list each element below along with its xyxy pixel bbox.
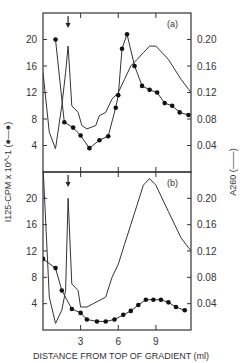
panel-b: 201612840.200.160.120.080.04(b) [26,165,217,330]
y-left-tick-label: 8 [31,114,37,125]
cpm-data-point [147,88,152,93]
cpm-data-point [151,297,156,302]
cpm-data-point [155,90,160,95]
a260-series-line [43,46,191,149]
cpm-data-point [53,266,58,271]
panel-label: (b) [167,178,178,188]
y-right-tick-label: 0.04 [197,298,217,309]
cpm-data-point [121,313,126,318]
cpm-data-point [140,84,145,89]
y-left-tick-label: 8 [31,272,37,283]
cpm-data-point [128,309,133,314]
y-left-tick-label: 12 [26,246,38,257]
y-right-axis-label: A260 (——) [228,148,238,196]
cpm-data-point [144,297,149,302]
cpm-data-point [125,32,130,37]
x-tick-label: 6 [115,336,121,347]
y-right-tick-label: 0.20 [197,34,217,45]
cpm-data-point [71,125,76,130]
y-left-tick-label: 16 [26,61,38,72]
panel-a: 201612840.200.160.120.080.04(a) [26,13,217,172]
y-left-tick-label: 4 [31,140,37,151]
y-left-tick-label: 20 [26,193,38,204]
x-axis-label: DISTANCE FROM TOP OF GRADIENT (ml) [33,351,209,361]
cpm-data-point [170,103,175,108]
cpm-data-point [87,146,92,151]
cpm-data-point [60,288,65,293]
cpm-data-point [78,311,83,316]
plot-frame [43,13,191,172]
cpm-data-point [162,101,167,106]
cpm-data-point [62,120,67,125]
cpm-data-point [97,138,102,143]
cpm-data-point [159,297,164,302]
cpm-series-line [56,34,189,148]
cpm-data-point [174,305,179,310]
cpm-data-point [41,257,46,262]
a260-series-line [43,165,191,323]
cpm-data-point [112,317,117,322]
y-right-tick-label: 0.04 [197,140,217,151]
cpm-data-point [177,110,182,115]
y-right-tick-label: 0.16 [197,219,217,230]
y-left-axis-label: I125-CPM x 10^-1 (●—●) [3,122,13,223]
cpm-data-point [53,37,58,42]
y-right-tick-label: 0.12 [197,246,217,257]
y-left-tick-label: 4 [31,298,37,309]
panel-label: (a) [167,19,178,29]
cpm-data-point [182,308,187,313]
y-right-tick-label: 0.08 [197,272,217,283]
cpm-data-point [95,319,100,324]
y-right-tick-label: 0.20 [197,193,217,204]
y-left-tick-label: 16 [26,219,38,230]
y-left-tick-label: 12 [26,87,38,98]
cpm-data-point [186,113,191,118]
cpm-series-line [43,259,185,322]
cpm-data-point [113,105,118,110]
cpm-data-point [85,317,90,322]
y-right-tick-label: 0.12 [197,87,217,98]
chart-figure: 201612840.200.160.120.080.04(a)201612840… [0,0,242,363]
cpm-data-point [103,319,108,324]
cpm-data-point [78,133,83,138]
x-tick-label: 3 [78,336,84,347]
y-right-tick-label: 0.16 [197,61,217,72]
cpm-data-point [166,300,171,305]
y-right-tick-label: 0.08 [197,114,217,125]
cpm-data-point [120,46,125,51]
plot-frame [43,172,191,330]
x-tick-label: 9 [153,336,159,347]
cpm-data-point [70,307,75,312]
cpm-data-point [106,134,111,139]
y-left-tick-label: 20 [26,34,38,45]
cpm-data-point [136,303,141,308]
